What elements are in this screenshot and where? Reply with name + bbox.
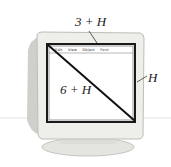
menu-item-object: Object <box>82 48 95 52</box>
diagonal-label: 6 + H <box>60 82 91 98</box>
menu-bar: Edit View Object Font <box>55 48 113 52</box>
menu-item-font: Font <box>100 48 108 52</box>
height-label: H <box>148 70 157 86</box>
width-label: 3 + H <box>75 14 106 30</box>
menu-item-view: View <box>68 48 77 52</box>
menu-item-edit: Edit <box>55 48 63 52</box>
